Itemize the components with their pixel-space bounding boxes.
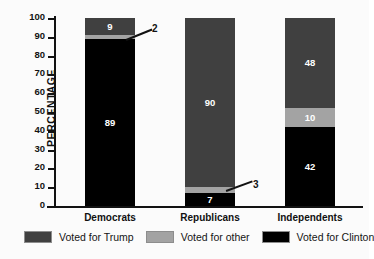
bar-segment-trump[interactable]: 9 [85,18,135,35]
legend-label: Voted for other [181,231,250,243]
y-axis-tick-mark [48,56,54,58]
y-axis-tick-label: 100 [29,11,45,22]
y-axis-tick-label: 0 [40,199,45,210]
bar-segment-trump-value: 9 [107,22,112,32]
y-axis-tick-label: 10 [34,180,45,191]
legend-swatch [146,231,174,243]
y-axis-tick-mark [48,93,54,95]
x-axis-line [47,206,363,208]
legend: Voted for TrumpVoted for otherVoted for … [24,231,374,243]
bar-segment-trump-value: 90 [205,98,216,108]
y-axis-tick-mark [48,187,54,189]
y-axis-tick-label: 40 [34,124,45,135]
y-axis-tick-mark [48,112,54,114]
bar-segment-clinton[interactable]: 7 [185,193,235,206]
bar-segment-clinton-value: 7 [207,195,212,205]
y-axis-tick-label: 20 [34,161,45,172]
y-axis-tick-mark [48,168,54,170]
legend-swatch [262,231,290,243]
y-axis-tick-label: 90 [34,30,45,41]
legend-item[interactable]: Voted for other [146,231,250,243]
bar-segment-trump[interactable]: 48 [285,18,335,108]
legend-item[interactable]: Voted for Trump [24,231,134,243]
y-axis-tick-label: 30 [34,143,45,154]
bar-segment-clinton-value: 42 [305,162,316,172]
legend-label: Voted for Trump [59,231,134,243]
bar-segment-clinton[interactable]: 89 [85,39,135,206]
plot-area: 9 2 89 90 3 7 48 [55,18,351,206]
x-axis-label-independents: Independents [255,212,365,223]
bar-segment-trump-value: 48 [305,58,316,68]
y-axis-tick-mark [48,206,54,208]
y-axis-tick-mark [48,150,54,152]
legend-item[interactable]: Voted for Clinton [262,231,374,243]
y-axis-tick-label: 80 [34,49,45,60]
bar-democrats[interactable]: 9 2 89 [85,18,135,206]
y-axis-tick-label: 70 [34,67,45,78]
callout-label-democrats-other: 2 [152,23,158,34]
bar-independents[interactable]: 48 10 42 [285,18,335,206]
bar-segment-other[interactable]: 10 [285,108,335,127]
bar-segment-trump[interactable]: 90 [185,18,235,187]
x-axis-label-democrats: Democrats [55,212,165,223]
bar-republicans[interactable]: 90 3 7 [185,18,235,206]
legend-swatch [24,231,52,243]
x-axis-label-republicans: Republicans [155,212,265,223]
callout-label-republicans-other: 3 [253,179,259,190]
y-axis-tick-mark [48,18,54,20]
bar-segment-clinton-value: 89 [105,118,116,128]
y-axis-tick-label: 60 [34,86,45,97]
bar-segment-clinton[interactable]: 42 [285,127,335,206]
bar-segment-other-value: 10 [305,113,316,123]
legend-label: Voted for Clinton [297,231,374,243]
y-axis-tick-mark [48,37,54,39]
y-axis-tick-mark [48,131,54,133]
y-axis-tick-mark [48,74,54,76]
y-axis-tick-label: 50 [34,105,45,116]
